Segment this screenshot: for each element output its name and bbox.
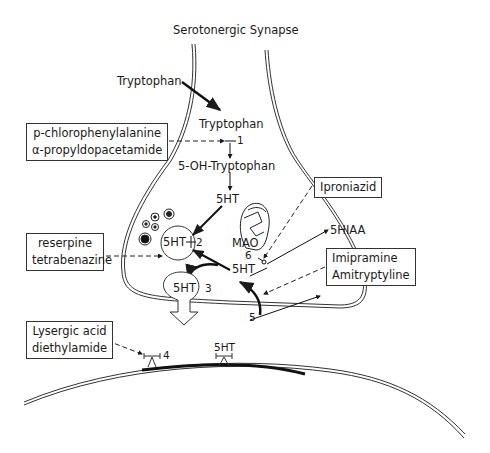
step-4: 4 <box>163 349 170 362</box>
drug-amitryptyline: Amitryptyline <box>332 267 410 284</box>
drug-reserpine: reserpine <box>32 235 98 252</box>
synapse-diagram <box>0 0 490 453</box>
label-5ht-vesicle: 5HT <box>163 236 186 249</box>
drug-box-reuptake-inhibitors: Imipramine Amitryptyline <box>326 248 416 286</box>
step-1: 1 <box>237 134 244 147</box>
drug-box-receptor-blocker: Lysergic acid diethylamide <box>26 321 113 359</box>
step-6: 6 <box>245 249 252 262</box>
label-tryptophan-inside: Tryptophan <box>199 118 264 131</box>
label-5-oh-tryptophan: 5-OH-Tryptophan <box>178 160 275 173</box>
diagram-title: Serotonergic Synapse <box>173 24 299 37</box>
postsynaptic-membrane <box>24 363 465 438</box>
label-5ht-receptor: 5HT <box>214 341 235 354</box>
drug-imipramine: Imipramine <box>332 250 410 267</box>
drug-box-mao-inhibitor: Iproniazid <box>314 177 382 198</box>
postsynaptic-density <box>142 365 305 374</box>
step-3: 3 <box>205 282 212 295</box>
step-5: 5 <box>249 311 256 324</box>
drug-iproniazid: Iproniazid <box>320 179 376 196</box>
drug-pcpa: p-chlorophenylalanine <box>32 125 162 142</box>
label-5ht-cytoplasm: 5HT <box>216 193 239 206</box>
label-tryptophan-outside: Tryptophan <box>117 75 182 88</box>
drug-lsd-line2: diethylamide <box>32 340 107 357</box>
receptor-blocked <box>144 353 160 367</box>
step-2: 2 <box>196 236 203 249</box>
label-5ht-reuptake: 5HT <box>232 263 255 276</box>
drug-box-vesicle-inhibitors: reserpine tetrabenazine <box>26 233 104 271</box>
drug-box-synthesis-inhibitors: p-chlorophenylalanine α-propyldopacetami… <box>26 123 168 161</box>
label-5hiaa: 5HIAA <box>330 224 365 237</box>
drug-tetrabenazine: tetrabenazine <box>32 252 98 269</box>
label-5ht-release: 5HT <box>173 282 196 295</box>
drug-apda: α-propyldopacetamide <box>32 142 162 159</box>
release-vesicle <box>163 272 198 325</box>
drug-lsd-line1: Lysergic acid <box>32 323 107 340</box>
